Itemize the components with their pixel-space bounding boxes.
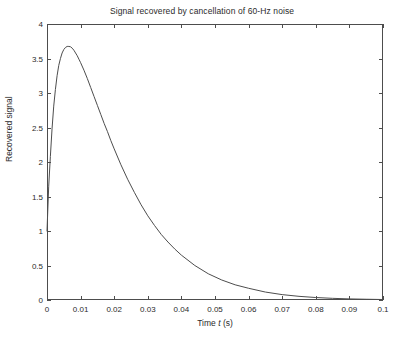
signal-curve: [47, 24, 383, 300]
x-tick: [383, 296, 384, 300]
plot-area: [47, 24, 383, 300]
x-tick-label: 0.1: [377, 305, 388, 314]
x-tick: [181, 24, 182, 28]
x-tick: [81, 296, 82, 300]
chart-figure: Signal recovered by cancellation of 60-H…: [0, 0, 404, 341]
x-tick-label: 0.03: [140, 305, 156, 314]
y-tick: [47, 128, 51, 129]
y-tick-label: 4: [39, 20, 43, 29]
x-tick: [282, 296, 283, 300]
x-tick-label: 0: [45, 305, 49, 314]
y-tick: [379, 300, 383, 301]
x-axis-label: Time t (s): [47, 318, 383, 328]
x-tick: [148, 24, 149, 28]
x-tick: [215, 24, 216, 28]
x-tick: [349, 296, 350, 300]
x-tick-label: 0.04: [174, 305, 190, 314]
x-tick: [383, 24, 384, 28]
x-tick: [316, 24, 317, 28]
y-tick: [379, 93, 383, 94]
y-tick-label: 0: [39, 296, 43, 305]
y-tick-label: 1: [39, 227, 43, 236]
y-tick: [47, 24, 51, 25]
x-tick-label: 0.02: [106, 305, 122, 314]
x-tick-label: 0.08: [308, 305, 324, 314]
y-tick: [47, 266, 51, 267]
y-tick: [379, 231, 383, 232]
chart-title: Signal recovered by cancellation of 60-H…: [0, 6, 404, 16]
x-tick-label: 0.06: [241, 305, 257, 314]
y-tick: [47, 231, 51, 232]
x-axis-label-suffix: (s): [221, 318, 233, 328]
y-tick: [379, 197, 383, 198]
x-tick: [349, 24, 350, 28]
x-tick: [181, 296, 182, 300]
y-tick-label: 0.5: [32, 261, 43, 270]
x-tick-label: 0.09: [342, 305, 358, 314]
x-tick: [316, 296, 317, 300]
y-tick-label: 3: [39, 89, 43, 98]
x-tick: [249, 24, 250, 28]
y-tick-label: 3.5: [32, 54, 43, 63]
x-tick: [81, 24, 82, 28]
x-tick: [249, 296, 250, 300]
x-axis-label-prefix: Time: [197, 318, 218, 328]
x-tick: [114, 24, 115, 28]
y-tick: [47, 59, 51, 60]
y-tick: [47, 300, 51, 301]
y-tick: [379, 24, 383, 25]
x-tick: [114, 296, 115, 300]
y-tick-label: 2.5: [32, 123, 43, 132]
x-tick-label: 0.05: [207, 305, 223, 314]
y-tick: [379, 128, 383, 129]
y-tick: [379, 59, 383, 60]
x-tick: [215, 296, 216, 300]
y-tick: [47, 197, 51, 198]
x-tick: [282, 24, 283, 28]
y-tick: [379, 266, 383, 267]
y-axis-label: Recovered signal: [4, 96, 14, 162]
y-tick-label: 1.5: [32, 192, 43, 201]
y-tick: [379, 162, 383, 163]
y-tick-label: 2: [39, 158, 43, 167]
x-tick-label: 0.01: [73, 305, 89, 314]
x-tick: [148, 296, 149, 300]
x-tick-label: 0.07: [274, 305, 290, 314]
y-tick: [47, 93, 51, 94]
y-tick: [47, 162, 51, 163]
